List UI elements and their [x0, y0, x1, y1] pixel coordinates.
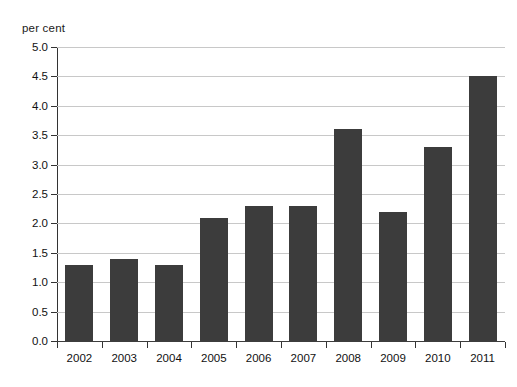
x-axis-tick — [236, 342, 237, 348]
y-axis-tick-label: 2.5 — [14, 188, 48, 200]
x-axis-tick-label: 2003 — [102, 352, 146, 364]
bar — [469, 76, 497, 341]
y-axis-tick — [51, 47, 57, 48]
bar — [289, 206, 317, 341]
y-axis-tick — [51, 282, 57, 283]
x-axis-tick-label: 2002 — [57, 352, 101, 364]
y-axis-tick-label: 3.5 — [14, 129, 48, 141]
gridline — [57, 135, 505, 136]
bar-chart: per cent 0.00.51.01.52.02.53.03.54.04.55… — [0, 0, 517, 387]
x-axis-tick-label: 2011 — [461, 352, 505, 364]
y-axis-tick-label: 1.5 — [14, 247, 48, 259]
bar — [65, 265, 93, 341]
x-axis-tick-label: 2006 — [237, 352, 281, 364]
gridline — [57, 76, 505, 77]
y-axis-tick — [51, 253, 57, 254]
y-axis-tick — [51, 135, 57, 136]
y-axis-tick-label: 2.0 — [14, 217, 48, 229]
x-axis-tick-label: 2008 — [326, 352, 370, 364]
x-axis-tick-label: 2004 — [147, 352, 191, 364]
y-axis-tick-label: 0.0 — [14, 335, 48, 347]
x-axis-tick-label: 2009 — [371, 352, 415, 364]
x-axis-tick — [147, 342, 148, 348]
y-axis-tick — [51, 165, 57, 166]
y-axis-tick-label: 5.0 — [14, 41, 48, 53]
x-axis-tick — [191, 342, 192, 348]
plot-area — [57, 47, 505, 341]
gridline — [57, 47, 505, 48]
y-axis-tick — [51, 194, 57, 195]
bar — [245, 206, 273, 341]
bar — [200, 218, 228, 341]
bar — [424, 147, 452, 341]
x-axis-tick — [505, 342, 506, 348]
y-axis-tick-label: 4.0 — [14, 100, 48, 112]
bar — [379, 212, 407, 341]
x-axis-tick-label: 2005 — [192, 352, 236, 364]
x-axis-tick — [415, 342, 416, 348]
y-axis-tick — [51, 312, 57, 313]
x-axis-tick — [460, 342, 461, 348]
y-axis-tick-label-group: 0.00.51.01.52.02.53.03.54.04.55.0 — [8, 0, 48, 387]
y-axis-tick-label: 3.0 — [14, 159, 48, 171]
y-axis-tick-label: 4.5 — [14, 70, 48, 82]
x-axis-tick — [281, 342, 282, 348]
y-axis-tick-label: 0.5 — [14, 306, 48, 318]
bar — [155, 265, 183, 341]
x-axis-tick — [371, 342, 372, 348]
x-axis-tick-label: 2010 — [416, 352, 460, 364]
gridline — [57, 106, 505, 107]
y-axis-tick — [51, 223, 57, 224]
bar — [334, 129, 362, 341]
x-axis-tick — [326, 342, 327, 348]
y-axis-tick-label: 1.0 — [14, 276, 48, 288]
y-axis-tick — [51, 106, 57, 107]
x-axis-tick-label: 2007 — [281, 352, 325, 364]
y-axis-tick — [51, 76, 57, 77]
x-axis-tick — [102, 342, 103, 348]
bar — [110, 259, 138, 341]
x-axis-tick — [57, 342, 58, 348]
